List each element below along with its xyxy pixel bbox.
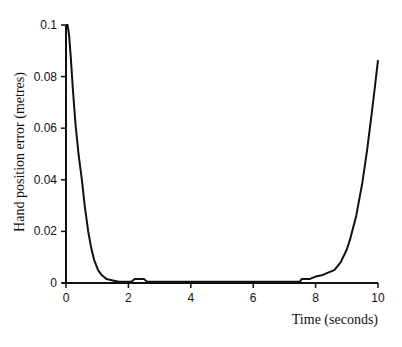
x-tick-label: 6 — [250, 291, 257, 305]
y-tick-label: 0.02 — [34, 224, 58, 238]
chart-axes — [62, 25, 378, 283]
y-tick-label: 0.1 — [40, 18, 57, 32]
x-axis-title: Time (seconds) — [292, 312, 379, 328]
y-tick-label: 0.04 — [34, 173, 58, 187]
x-tick-label: 10 — [371, 291, 385, 305]
y-tick-label: 0.06 — [34, 121, 58, 135]
x-axis-ticks: 0246810 — [63, 283, 385, 305]
y-axis-ticks: 00.020.040.060.080.1 — [34, 18, 66, 290]
x-tick-label: 8 — [312, 291, 319, 305]
x-tick-label: 4 — [187, 291, 194, 305]
error-curve — [66, 25, 378, 282]
line-chart: 00.020.040.060.080.1 0246810 Time (secon… — [0, 0, 402, 347]
y-tick-label: 0 — [50, 276, 57, 290]
x-tick-label: 0 — [63, 291, 70, 305]
y-tick-label: 0.08 — [34, 70, 58, 84]
x-tick-label: 2 — [125, 291, 132, 305]
y-axis-title: Hand position error (metres) — [12, 72, 28, 232]
